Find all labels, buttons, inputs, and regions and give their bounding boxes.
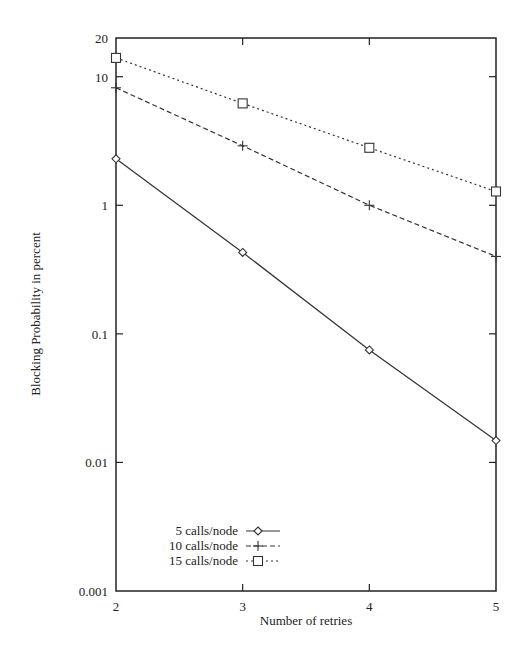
- x-tick-label: 5: [493, 599, 500, 614]
- y-axis-title: Blocking Probability in percent: [28, 232, 43, 396]
- legend-label: 5 calls/node: [176, 523, 239, 538]
- square-marker-icon: [254, 557, 263, 566]
- diamond-marker-icon: [254, 527, 262, 535]
- x-axis-title: Number of retries: [260, 613, 352, 628]
- legend: 5 calls/node10 calls/node15 calls/node: [169, 523, 280, 568]
- series-10-calls-node: [111, 83, 501, 262]
- square-marker-icon: [492, 187, 501, 196]
- plus-marker-icon: [111, 83, 121, 93]
- legend-label: 15 calls/node: [169, 553, 238, 568]
- x-tick-label: 3: [239, 599, 246, 614]
- plus-marker-icon: [491, 251, 501, 261]
- square-marker-icon: [112, 53, 121, 62]
- y-axis-ticks: 0.0010.010.111020: [79, 31, 496, 599]
- y-tick-label: 10: [95, 70, 108, 85]
- diamond-marker-icon: [492, 437, 500, 445]
- x-axis-ticks: 2345: [113, 38, 500, 614]
- x-tick-label: 4: [366, 599, 373, 614]
- y-tick-label: 0.001: [79, 584, 108, 599]
- blocking-probability-chart: 2345 0.0010.010.111020 Number of retries…: [0, 0, 522, 655]
- plot-frame: [116, 38, 496, 591]
- square-marker-icon: [365, 143, 374, 152]
- plus-marker-icon: [253, 541, 263, 551]
- y-tick-label: 20: [95, 31, 108, 46]
- y-tick-label: 0.01: [85, 455, 108, 470]
- legend-item: 15 calls/node: [169, 553, 280, 568]
- y-tick-label: 0.1: [92, 327, 108, 342]
- series-lines: [111, 53, 501, 444]
- x-tick-label: 2: [113, 599, 120, 614]
- plus-marker-icon: [238, 141, 248, 151]
- legend-item: 10 calls/node: [169, 538, 280, 553]
- legend-label: 10 calls/node: [169, 538, 238, 553]
- series-15-calls-node: [112, 53, 501, 196]
- plus-marker-icon: [364, 200, 374, 210]
- y-tick-label: 1: [102, 198, 109, 213]
- series-5-calls-node: [112, 155, 500, 445]
- square-marker-icon: [238, 99, 247, 108]
- legend-item: 5 calls/node: [176, 523, 280, 538]
